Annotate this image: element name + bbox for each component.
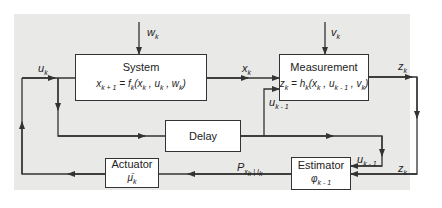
label-z-out: zk xyxy=(398,60,407,77)
estimator-title: Estimator xyxy=(298,159,344,172)
system-block: System xk + 1 = fk(xk , uk , wk) xyxy=(75,54,207,101)
label-p: Pxk | Ik xyxy=(237,161,263,181)
label-x: xk xyxy=(242,62,251,79)
system-title: System xyxy=(123,61,160,74)
measurement-equation: zk = hk(xk , uk - 1 , vk) xyxy=(280,77,369,94)
actuator-symbol: μ̄k xyxy=(128,171,137,188)
system-equation: xk + 1 = fk(xk , uk , wk) xyxy=(96,77,186,94)
measurement-block: Measurement zk = hk(xk , uk - 1 , vk) xyxy=(279,54,369,101)
label-u-prev-meas: uk - 1 xyxy=(269,96,289,113)
actuator-block: Actuator μ̄k xyxy=(105,158,159,188)
measurement-title: Measurement xyxy=(290,61,357,74)
label-z-in: zk xyxy=(398,162,407,179)
delay-title: Delay xyxy=(189,130,217,143)
estimator-symbol: φk - 1 xyxy=(311,172,331,189)
label-u: uk xyxy=(38,62,48,79)
estimator-block: Estimator φk - 1 xyxy=(291,157,351,190)
label-v: vk xyxy=(331,26,340,43)
signal-wires xyxy=(0,0,442,208)
label-w: wk xyxy=(147,26,158,43)
label-u-prev-est: uk - 1 xyxy=(357,153,377,170)
actuator-title: Actuator xyxy=(112,158,153,171)
delay-block: Delay xyxy=(165,120,241,152)
